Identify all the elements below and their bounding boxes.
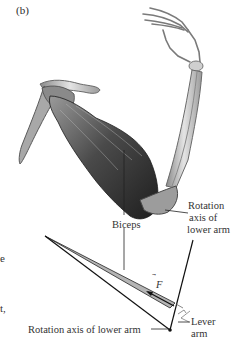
- lever-arm-label-line1: Lever: [191, 316, 215, 328]
- panel-label: (b): [16, 4, 29, 16]
- rotation-axis-lower-label: Rotation axis of lower arm: [28, 324, 141, 336]
- hand-bones: [143, 8, 200, 62]
- rotation-axis-upper-label-line3: lower arm: [187, 224, 230, 236]
- cropped-text-fragment-1: e: [0, 252, 5, 264]
- forearm-wedge: [45, 236, 175, 308]
- biceps-label: Biceps: [112, 219, 141, 231]
- biceps-lever-illustration: [0, 0, 233, 344]
- lever-arm-label-line2: arm: [191, 328, 207, 340]
- pivot-point: [168, 328, 172, 332]
- rotation-axis-upper-label-line2: axis of: [189, 212, 217, 224]
- force-vector-label: ⃗ F: [156, 279, 162, 291]
- forearm-bones: [166, 70, 202, 188]
- cropped-text-fragment-2: t,: [0, 302, 6, 314]
- rotation-axis-upper-label-line1: Rotation: [188, 200, 224, 212]
